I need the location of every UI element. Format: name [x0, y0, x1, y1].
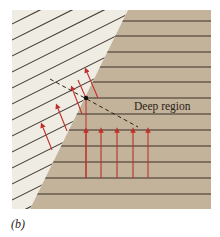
- intersection-point: [84, 96, 88, 100]
- wave-refraction-diagram: Deep region: [0, 0, 220, 237]
- deep-region-label: Deep region: [134, 100, 191, 113]
- panel-label: (b): [11, 217, 25, 232]
